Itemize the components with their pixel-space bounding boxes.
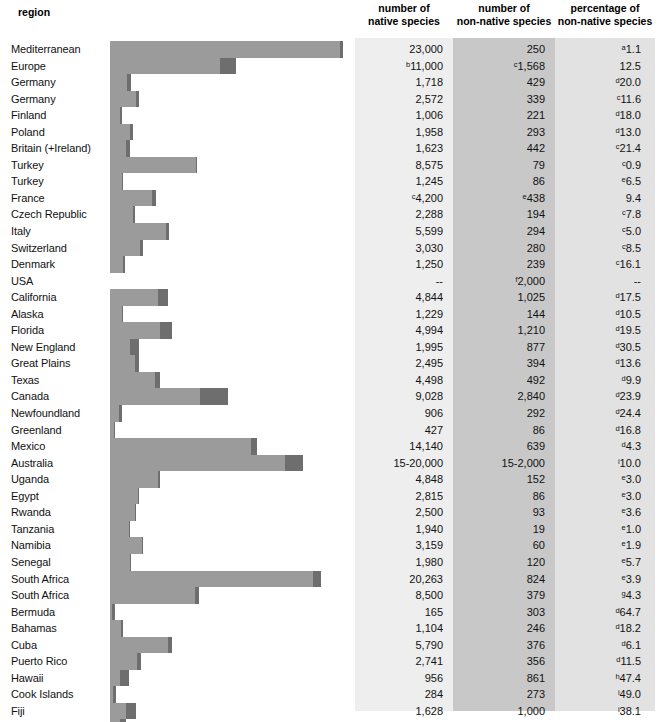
bar-segment-non-native — [285, 455, 303, 472]
cell-percentage-non-native: 9.4 — [555, 191, 641, 206]
header-non-native-species-line2: non-native species — [453, 15, 555, 28]
table-row: South Africa20,263824e3.9 — [0, 571, 665, 588]
cell-non-native-species: 15-2,000 — [453, 456, 545, 471]
bar-segment-native — [110, 58, 220, 75]
cell-non-native-species: 861 — [453, 671, 545, 686]
region-label: Bermuda — [11, 605, 116, 620]
cell-native-species: 8,500 — [355, 588, 443, 603]
cell-non-native-species: 120 — [453, 555, 545, 570]
cell-percentage-non-native: d11.5 — [555, 654, 641, 669]
bar-segment-non-native — [129, 521, 130, 538]
region-label: Australia — [11, 456, 116, 471]
bar-segment-non-native — [136, 91, 139, 108]
cell-percentage-non-native: d24.4 — [555, 406, 641, 421]
cell-native-species-superscript: c — [412, 192, 416, 201]
cell-non-native-species: 194 — [453, 207, 545, 222]
cell-percentage-non-native-superscript: e — [622, 573, 626, 582]
bar-segment-non-native — [166, 223, 169, 240]
cell-native-species: 1,250 — [355, 257, 443, 272]
cell-native-species: -- — [355, 274, 443, 289]
bar-segment-native — [110, 306, 122, 323]
stacked-bar — [110, 521, 350, 538]
cell-native-species: 1,995 — [355, 340, 443, 355]
region-label: Egypt — [11, 489, 116, 504]
cell-percentage-non-native-superscript: c — [616, 142, 620, 151]
region-label: Turkey — [11, 158, 116, 173]
table-row: Europeb11,000c1,56812.5 — [0, 58, 665, 75]
bar-segment-native — [110, 240, 140, 257]
bar-segment-native — [110, 190, 152, 207]
table-row: Namibia3,15960e1.9 — [0, 537, 665, 554]
stacked-bar — [110, 471, 350, 488]
cell-percentage-non-native: i10.0 — [555, 456, 641, 471]
bar-segment-native — [110, 554, 130, 571]
bar-segment-non-native — [119, 405, 122, 422]
bar-segment-native — [110, 571, 313, 588]
cell-percentage-non-native: d4.3 — [555, 439, 641, 454]
region-label: Europe — [11, 59, 116, 74]
table-row: Mediterranean23,000250a1.1 — [0, 41, 665, 58]
stacked-bar — [110, 388, 350, 405]
cell-percentage-non-native-superscript: c — [617, 93, 621, 102]
cell-non-native-species: 442 — [453, 141, 545, 156]
bar-segment-native — [110, 339, 130, 356]
region-label: Mexico — [11, 439, 116, 454]
bar-segment-non-native — [135, 355, 139, 372]
bar-segment-non-native — [123, 256, 125, 273]
stacked-bar — [110, 571, 350, 588]
table-row: Greenland42786d16.8 — [0, 422, 665, 439]
cell-native-species: 3,159 — [355, 538, 443, 553]
bar-segment-non-native — [120, 107, 122, 124]
bar-segment-native — [110, 289, 158, 306]
cell-non-native-species: 86 — [453, 489, 545, 504]
bar-segment-non-native — [313, 571, 321, 588]
header-native-species-line2: native species — [355, 15, 453, 28]
cell-non-native-species: 429 — [453, 75, 545, 90]
bar-segment-non-native — [195, 587, 199, 604]
table-row: Denmark1,250239c16.1 — [0, 256, 665, 273]
stacked-bar — [110, 554, 350, 571]
cell-percentage-non-native: d19.5 — [555, 323, 641, 338]
cell-non-native-species: 152 — [453, 472, 545, 487]
bar-segment-non-native — [140, 240, 143, 257]
cell-percentage-non-native: 12.5 — [555, 59, 641, 74]
cell-percentage-non-native: e6.5 — [555, 174, 641, 189]
table-row: Uganda4,848152e3.0 — [0, 471, 665, 488]
table-row: Rwanda2,50093e3.6 — [0, 504, 665, 521]
cell-native-species: 427 — [355, 423, 443, 438]
table-header: region number of native species number o… — [0, 0, 665, 38]
cell-non-native-species: 877 — [453, 340, 545, 355]
stacked-bar — [110, 339, 350, 356]
cell-non-native-species: 2,840 — [453, 389, 545, 404]
bar-segment-native — [110, 703, 126, 720]
bar-segment-non-native — [158, 289, 168, 306]
cell-non-native-species: 86 — [453, 174, 545, 189]
stacked-bar — [110, 124, 350, 141]
cell-percentage-non-native: d13.0 — [555, 125, 641, 140]
cell-native-species: 9,028 — [355, 389, 443, 404]
bar-segment-native — [110, 91, 136, 108]
table-row: Italy5,599294c5.0 — [0, 223, 665, 240]
cell-native-species: 4,844 — [355, 290, 443, 305]
region-label: Mediterranean — [11, 42, 116, 57]
cell-native-species: 1,628 — [355, 704, 443, 719]
cell-percentage-non-native: c5.0 — [555, 224, 641, 239]
bar-segment-non-native — [121, 620, 123, 637]
table-row: Senegal1,980120e5.7 — [0, 554, 665, 571]
cell-percentage-non-native: d64.7 — [555, 605, 641, 620]
table-row: Poland1,958293d13.0 — [0, 124, 665, 141]
cell-percentage-non-native-superscript: e — [622, 540, 626, 549]
cell-native-species: 2,500 — [355, 505, 443, 520]
region-label: Newfoundland — [11, 406, 116, 421]
cell-percentage-non-native: d30.5 — [555, 340, 641, 355]
cell-non-native-species: 86 — [453, 423, 545, 438]
bar-segment-non-native — [130, 339, 139, 356]
table-row: Turkey1,24586e6.5 — [0, 173, 665, 190]
cell-non-native-species: 79 — [453, 158, 545, 173]
cell-native-species: 4,498 — [355, 373, 443, 388]
table-row: Bermuda165303d64.7 — [0, 604, 665, 621]
cell-non-native-species: 93 — [453, 505, 545, 520]
species-table-figure: region number of native species number o… — [0, 0, 665, 722]
bar-segment-native — [110, 74, 127, 91]
bar-segment-native — [110, 322, 160, 339]
